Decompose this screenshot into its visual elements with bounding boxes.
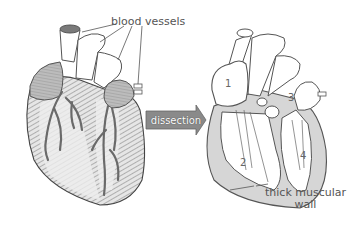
- chamber-3-label: 3: [288, 92, 294, 103]
- thick-muscular-wall-label: thick muscular wall: [265, 187, 346, 211]
- thick-wall-line-2: wall: [265, 199, 346, 211]
- chamber-2-label: 2: [240, 157, 246, 168]
- dissected-heart: [207, 29, 326, 208]
- blood-vessels-label: blood vessels: [111, 16, 185, 28]
- chamber-1-label: 1: [225, 78, 231, 89]
- external-heart: [27, 24, 145, 205]
- dissection-label: dissection: [149, 112, 203, 129]
- chamber-4-label: 4: [300, 150, 306, 161]
